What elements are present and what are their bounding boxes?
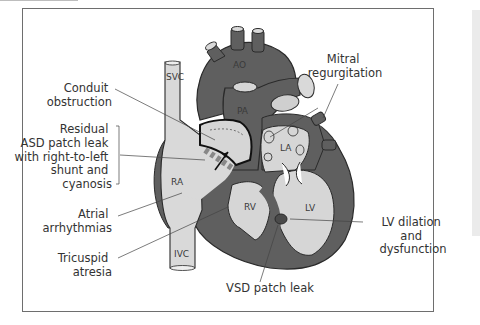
callout-mitral-regurgitation: Mitral regurgitation bbox=[308, 52, 383, 80]
label-pa: PA bbox=[237, 106, 249, 116]
leader-mitral bbox=[323, 84, 338, 118]
label-ao: AO bbox=[233, 60, 246, 70]
label-ivc: IVC bbox=[174, 249, 189, 259]
callout-atrial-arrhythmias: Atrial arrhythmias bbox=[43, 207, 112, 235]
callouts-left: Conduit obstruction Residual ASD patch l… bbox=[15, 81, 112, 279]
label-ra: RA bbox=[171, 177, 184, 187]
label-la: LA bbox=[280, 143, 292, 153]
callout-residual-asd: Residual ASD patch leak with right-to-le… bbox=[15, 122, 112, 191]
callout-tricuspid-atresia: Tricuspid atresia bbox=[57, 251, 112, 279]
callout-lv-dilation: LV dilation and dysfunction bbox=[379, 215, 446, 256]
label-rv: RV bbox=[244, 202, 257, 212]
callout-conduit-obstruction: Conduit obstruction bbox=[47, 81, 112, 109]
heart-diagram: SVC AO PA LA RA RV LV IVC Conduit obstru… bbox=[0, 0, 480, 325]
label-lv: LV bbox=[305, 203, 316, 213]
callout-vsd-patch-leak: VSD patch leak bbox=[226, 281, 314, 295]
label-svc: SVC bbox=[166, 72, 184, 82]
